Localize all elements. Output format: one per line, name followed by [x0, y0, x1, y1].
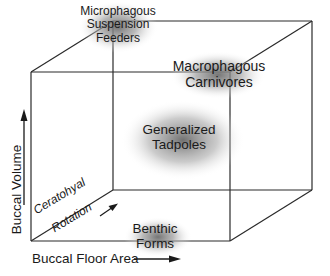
- z-axis-arrow: [100, 204, 118, 217]
- node-macrophagous-carnivores: Macrophagous Carnivores: [173, 59, 266, 90]
- x-axis-label: Buccal Floor Area: [32, 251, 139, 266]
- node-microphagous-suspension-feeders: Microphagous Suspension Feeders: [80, 5, 155, 45]
- node-generalized-tadpoles: Generalized Tadpoles: [143, 122, 216, 152]
- node-benthic-forms: Benthic Forms: [132, 221, 177, 251]
- y-axis-label: Buccal Volume: [9, 145, 24, 234]
- morphospace-cube-diagram: Microphagous Suspension Feeders Macropha…: [0, 0, 330, 276]
